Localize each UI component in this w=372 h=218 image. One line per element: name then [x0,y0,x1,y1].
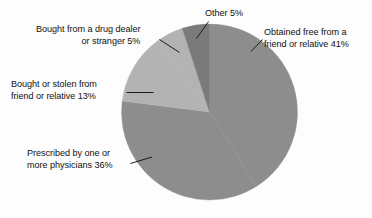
pie-label-obtained-free-line2: friend or relative 41% [264,39,349,51]
pie-label-prescribed: Prescribed by one or more physicians 36% [27,148,112,171]
pie-label-prescribed-line1: Prescribed by one or [27,148,112,160]
pie-label-other: Other 5% [205,8,243,20]
pie-slices [121,24,297,200]
pie-chart: Other 5% Obtained free from a friend or … [0,0,372,218]
pie-label-obtained-free: Obtained free from a friend or relative … [264,27,349,50]
pie-label-other-line1: Other 5% [205,8,243,20]
pie-label-drug-dealer-line2: or stranger 5% [36,36,140,48]
pie-label-bought-or-stolen-line2: friend or relative 13% [11,91,97,103]
pie-label-bought-or-stolen: Bought or stolen from friend or relative… [11,79,97,102]
pie-label-obtained-free-line1: Obtained free from a [264,27,349,39]
pie-label-bought-or-stolen-line1: Bought or stolen from [11,79,97,91]
pie-label-prescribed-line2: more physicians 36% [27,160,112,172]
pie-label-drug-dealer-line1: Bought from a drug dealer [36,24,140,36]
pie-label-drug-dealer: Bought from a drug dealer or stranger 5% [36,24,140,47]
